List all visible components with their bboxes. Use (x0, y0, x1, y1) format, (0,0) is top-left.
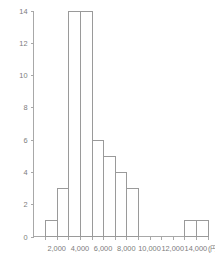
histogram-bar (69, 12, 81, 237)
histogram-bars (46, 12, 209, 237)
x-axis-ticks: 2,0004,0006,0008,00010,00012,00014,000 (46, 237, 209, 253)
chart-plot-area: 02468101214 2,0004,0006,0008,00010,00012… (0, 0, 215, 258)
histogram-bar (46, 221, 58, 237)
y-tick-label: 10 (19, 71, 27, 80)
y-tick-label: 8 (23, 103, 27, 112)
histogram-chart: 02468101214 2,0004,0006,0008,00010,00012… (0, 0, 215, 258)
x-tick-label: 14,000 (185, 244, 208, 253)
y-tick-label: 2 (23, 200, 27, 209)
histogram-bar (197, 221, 209, 237)
x-tick-label: 8,000 (117, 244, 136, 253)
histogram-bar (185, 221, 197, 237)
y-tick-label: 6 (23, 136, 27, 145)
x-tick-label: 10,000 (138, 244, 161, 253)
histogram-bar (104, 157, 116, 237)
histogram-bar (81, 12, 93, 237)
histogram-bar (93, 141, 104, 237)
x-tick-label: 12,000 (161, 244, 184, 253)
histogram-bar (127, 189, 139, 237)
y-tick-label: 12 (19, 39, 27, 48)
y-tick-label: 0 (23, 233, 27, 242)
y-tick-label: 14 (19, 7, 27, 16)
histogram-bar (58, 189, 69, 237)
x-tick-label: 6,000 (94, 244, 113, 253)
y-tick-label: 4 (23, 168, 27, 177)
x-axis-unit-label: (円) (208, 244, 215, 253)
histogram-bar (116, 173, 127, 237)
x-tick-label: 4,000 (71, 244, 90, 253)
y-axis-ticks: 02468101214 (19, 7, 33, 242)
x-tick-label: 2,000 (47, 244, 66, 253)
